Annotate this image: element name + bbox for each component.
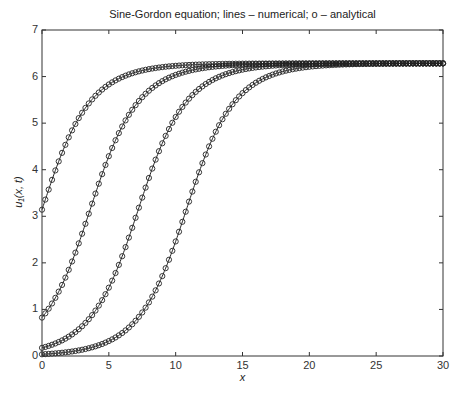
markers <box>39 61 445 357</box>
x-tick-label: 10 <box>166 359 186 371</box>
y-tick-label: 5 <box>26 116 38 128</box>
x-tick-label: 25 <box>366 359 386 371</box>
y-tick-label: 6 <box>26 70 38 82</box>
numerical-line-t1 <box>42 63 443 209</box>
y-tick-label: 0 <box>26 349 38 361</box>
y-axis-label: u₁(x, t) <box>12 152 24 232</box>
x-tick-label: 20 <box>299 359 319 371</box>
numerical-line-t2 <box>42 63 443 317</box>
y-tick-label: 7 <box>26 23 38 35</box>
curves <box>42 63 443 354</box>
y-tick-label: 4 <box>26 163 38 175</box>
y-tick-label: 1 <box>26 302 38 314</box>
y-tick-label: 2 <box>26 256 38 268</box>
x-tick-label: 15 <box>233 359 253 371</box>
axes-frame <box>42 30 443 356</box>
x-tick-label: 5 <box>99 359 119 371</box>
chart-title: Sine-Gordon equation; lines – numerical;… <box>42 8 443 20</box>
y-tick-label: 3 <box>26 209 38 221</box>
plot-area <box>0 0 465 393</box>
numerical-line-t3 <box>42 63 443 347</box>
numerical-line-t4 <box>42 63 443 354</box>
tick-marks <box>42 30 443 356</box>
x-tick-label: 30 <box>433 359 453 371</box>
x-axis-label: x <box>42 371 443 383</box>
